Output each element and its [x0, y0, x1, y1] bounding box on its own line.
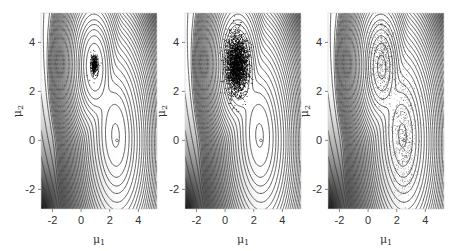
contour-panel-2: -2024-2024μ1μ2 [155, 13, 301, 247]
x-tick-label: 0 [78, 214, 84, 226]
x-tick-label: -2 [335, 214, 345, 226]
contour-panel-1: -2024-2024μ1μ2 [11, 13, 157, 247]
x-tick-label: 0 [222, 214, 228, 226]
x-tick-label: 4 [279, 214, 285, 226]
y-tick-label: 0 [316, 134, 322, 146]
y-tick-label: 2 [173, 85, 179, 97]
x-tick-label: 2 [251, 214, 257, 226]
contour-panel-3: -2024-2024μ1μ2 [298, 0, 444, 247]
y-tick-label: 2 [29, 85, 35, 97]
x-tick-label: 4 [135, 214, 141, 226]
x-axis-label: μ1 [93, 233, 105, 247]
y-tick-label: 4 [173, 36, 179, 48]
y-tick-label: 0 [29, 134, 35, 146]
y-tick-label: 4 [29, 36, 35, 48]
y-tick-label: 4 [316, 36, 322, 48]
y-tick-label: 2 [316, 85, 322, 97]
plot-area [328, 0, 444, 226]
y-tick-label: -2 [25, 183, 35, 195]
x-tick-label: -2 [48, 214, 58, 226]
plot-area [185, 13, 301, 209]
figure: -2024-2024μ1μ2 -2024-2024μ1μ2 -2024-2024… [0, 0, 459, 251]
y-tick-label: -2 [169, 183, 179, 195]
y-tick-label: 0 [173, 134, 179, 146]
x-tick-label: 0 [365, 214, 371, 226]
x-axis-label: μ1 [380, 233, 392, 247]
x-tick-label: 2 [107, 214, 113, 226]
x-tick-label: 4 [422, 214, 428, 226]
x-axis-label: μ1 [237, 233, 249, 247]
x-tick-label: 2 [394, 214, 400, 226]
x-tick-label: -2 [192, 214, 202, 226]
y-tick-label: -2 [312, 183, 322, 195]
plot-area [41, 13, 157, 209]
y-axis-label: μ2 [11, 105, 25, 117]
